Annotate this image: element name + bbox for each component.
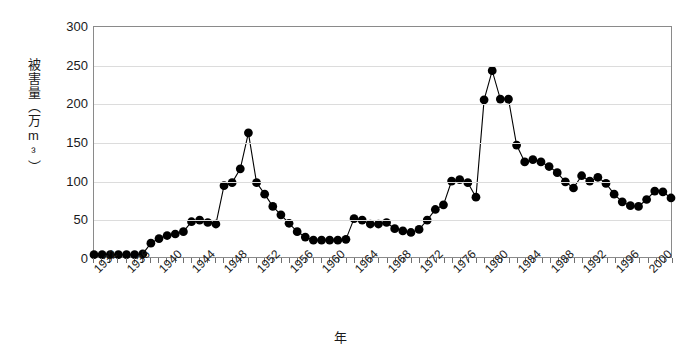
data-point <box>163 231 172 240</box>
data-point <box>593 173 602 182</box>
data-point <box>520 158 529 167</box>
data-point <box>439 201 448 210</box>
data-point <box>488 66 497 75</box>
data-point <box>634 202 643 211</box>
y-tick-label: 300 <box>48 19 88 34</box>
x-axis-title: 年 <box>0 327 681 346</box>
gridline-y <box>94 66 671 67</box>
data-point <box>171 230 180 239</box>
x-tick-mark <box>248 258 249 263</box>
data-point <box>398 227 407 236</box>
y-tick-label: 0 <box>48 251 88 266</box>
data-point <box>667 194 676 203</box>
data-point <box>236 164 245 173</box>
data-point <box>90 250 99 259</box>
data-point <box>407 228 416 237</box>
data-point <box>415 225 424 234</box>
y-axis-title: 被害量（万m³） <box>6 58 40 238</box>
y-axis-tick-labels: 050100150200250300 <box>45 0 88 354</box>
data-point <box>244 128 253 137</box>
series-line <box>94 71 671 255</box>
gridline-y <box>94 104 671 105</box>
data-point <box>333 236 342 245</box>
data-point <box>545 162 554 171</box>
data-point <box>553 168 562 177</box>
data-point <box>325 236 334 245</box>
data-point <box>480 95 489 104</box>
data-point <box>537 158 546 167</box>
data-point <box>277 210 286 219</box>
gridline-y <box>94 220 671 221</box>
y-tick-label: 250 <box>48 57 88 72</box>
data-point <box>260 190 269 199</box>
data-point <box>187 217 196 226</box>
gridline-y <box>94 143 671 144</box>
data-point <box>626 201 635 210</box>
data-point <box>317 236 326 245</box>
y-tick-label: 100 <box>48 173 88 188</box>
plot-area <box>93 26 672 258</box>
data-point <box>472 193 481 202</box>
data-point <box>179 227 188 236</box>
data-point <box>602 179 611 188</box>
data-series-line <box>94 27 671 257</box>
chart-figure: 被害量（万m³） 050100150200250300 年 1932193619… <box>0 0 681 354</box>
data-point <box>512 141 521 150</box>
data-point <box>293 227 302 236</box>
data-point <box>658 187 667 196</box>
y-tick-label: 150 <box>48 135 88 150</box>
data-point <box>642 195 651 204</box>
data-point <box>618 197 627 206</box>
data-point <box>342 235 351 244</box>
data-point <box>431 205 440 214</box>
data-point <box>309 236 318 245</box>
data-point <box>569 184 578 193</box>
data-point <box>155 234 164 243</box>
data-point <box>350 214 359 223</box>
data-point <box>650 187 659 196</box>
data-point <box>504 95 513 104</box>
data-point <box>268 202 277 211</box>
y-tick-label: 50 <box>48 212 88 227</box>
gridline-y <box>94 182 671 183</box>
data-point <box>610 190 619 199</box>
data-point <box>301 233 310 242</box>
data-point <box>496 95 505 104</box>
data-point <box>577 171 586 180</box>
data-point <box>390 224 399 233</box>
data-point <box>528 155 537 164</box>
data-point <box>146 239 155 248</box>
y-tick-label: 200 <box>48 96 88 111</box>
